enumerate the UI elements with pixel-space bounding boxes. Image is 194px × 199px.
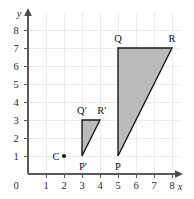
vertex-label-q-prime: Q′ [77, 105, 87, 116]
y-axis-label: y [16, 8, 22, 19]
y-tick-label-6: 6 [13, 61, 18, 72]
vertex-label-r-prime: R′ [97, 105, 106, 116]
y-tick-label-2: 2 [13, 133, 18, 144]
x-axis-label: x [177, 181, 183, 192]
x-tick-label-3: 3 [79, 180, 84, 191]
vertex-label-p-prime: P′ [79, 161, 87, 172]
vertex-label-r: R [168, 33, 175, 44]
x-tick-label-2: 2 [61, 180, 66, 191]
y-tick-label-4: 4 [13, 97, 19, 108]
point-label-c: C [52, 151, 59, 162]
origin-label: 0 [13, 180, 18, 191]
x-tick-label-7: 7 [151, 180, 156, 191]
x-tick-label-1: 1 [43, 180, 48, 191]
y-tick-label-3: 3 [13, 115, 18, 126]
y-tick-label-8: 8 [13, 25, 18, 36]
y-tick-labels: 1 2 3 4 5 6 7 8 [13, 25, 19, 162]
x-tick-label-5: 5 [115, 180, 120, 191]
y-tick-label-1: 1 [13, 151, 18, 162]
axes [24, 8, 183, 178]
y-tick-label-5: 5 [13, 79, 18, 90]
grid-lines [28, 12, 180, 174]
y-tick-label-7: 7 [13, 43, 18, 54]
point-marker-c [62, 154, 66, 158]
coordinate-plane-figure: 1 2 3 4 5 6 7 8 1 2 3 4 5 6 7 8 0 x y C [0, 0, 194, 199]
x-tick-label-8: 8 [169, 180, 174, 191]
x-axis-arrowhead [175, 170, 183, 178]
coordinate-plane-svg: 1 2 3 4 5 6 7 8 1 2 3 4 5 6 7 8 0 x y C [0, 0, 194, 199]
x-tick-labels: 1 2 3 4 5 6 7 8 [43, 180, 174, 191]
x-tick-label-4: 4 [97, 180, 103, 191]
x-tick-label-6: 6 [133, 180, 138, 191]
vertex-label-p: P [115, 161, 121, 172]
y-axis-arrowhead [24, 8, 32, 16]
vertex-label-q: Q [114, 33, 122, 44]
